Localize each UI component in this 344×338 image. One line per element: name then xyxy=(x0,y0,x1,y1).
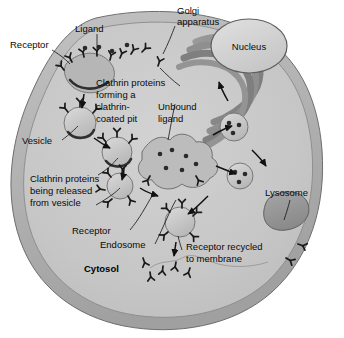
clathrin-pit-label-line3: clathrin- xyxy=(96,101,130,112)
clathrin-pit-label-line2: forming a xyxy=(96,89,136,100)
lysosome-label: Lysosome xyxy=(265,187,308,198)
unbound-ligand-label-line2: ligand xyxy=(158,113,183,124)
receptor-recycled-label-line1: Receptor recycled xyxy=(186,241,263,252)
unbound-ligand-label-line1: Unbound xyxy=(158,101,197,112)
golgi-label: Golgi apparatus xyxy=(177,5,220,27)
transport-vesicle-2 xyxy=(227,163,253,189)
receptor-mid-label: Receptor xyxy=(72,225,111,236)
vesicle-label: Vesicle xyxy=(22,135,52,146)
clathrin-pit-label-line1: Clathrin proteins xyxy=(96,77,165,88)
ligand-label: Ligand xyxy=(75,23,104,34)
clathrin-released-label-line1: Clathrin proteins xyxy=(30,173,99,184)
clathrin-released-label-line3: from vesicle xyxy=(30,197,81,208)
diagram-canvas: Nucleus xyxy=(0,0,344,338)
nucleus-label: Nucleus xyxy=(232,41,267,52)
receptor-top-label: Receptor xyxy=(10,39,49,50)
golgi-label-line2: apparatus xyxy=(177,16,220,27)
clathrin-pit-label-line4: coated pit xyxy=(96,113,138,124)
clathrin-released-label-line2: being released xyxy=(30,185,92,196)
endosome-label: Endosome xyxy=(100,239,145,250)
cytosol-label: Cytosol xyxy=(84,263,119,274)
transport-vesicle-1 xyxy=(220,113,248,141)
golgi-label-line1: Golgi xyxy=(177,5,199,16)
receptor-recycled-label-line2: to membrane xyxy=(186,253,242,264)
endocytosis-diagram: Nucleus xyxy=(0,0,344,338)
